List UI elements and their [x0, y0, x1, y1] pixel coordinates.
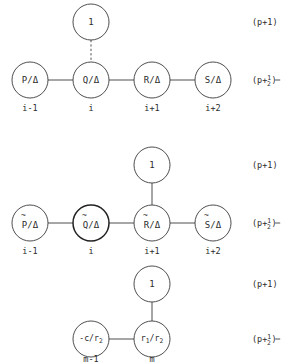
panel-2-level-label-upper: (p+1) — [252, 160, 278, 170]
panel-1-node-2-label: R/Δ — [144, 75, 161, 85]
panel-2-node-3-suffix: /Δ — [210, 220, 221, 230]
panel-1-node-3-label: S/Δ — [205, 75, 222, 85]
panel-2-node-3-index: i+2 — [205, 246, 220, 256]
panel-3-level-lower-prefix: (p+ — [252, 334, 267, 344]
panel-1-node-1-label: Q/Δ — [83, 75, 100, 85]
panel-2-node-1-suffix: /Δ — [88, 220, 99, 230]
panel-2-top-node-label: 1 — [149, 160, 154, 170]
panel-3-node-0-numer: -c — [79, 333, 89, 343]
panel-2-node-3-label: S/Δ — [205, 220, 222, 230]
panel-1-top-node-label: 1 — [88, 17, 93, 27]
panel-2: 1 ~ P/Δ i-1 ~ Q/Δ i ~ R/Δ i+1 ~ S/Δ i+2 … — [12, 147, 280, 256]
stencil-diagram-figure: 1 P/Δ i-1 Q/Δ i R/Δ i+1 S/Δ i+2 (p+1) (p… — [0, 0, 307, 364]
panel-2-level-label-lower: (p+12) — [252, 217, 277, 231]
panel-1-level-lower-prefix: (p+ — [252, 75, 267, 85]
panel-1: 1 P/Δ i-1 Q/Δ i R/Δ i+1 S/Δ i+2 (p+1) (p… — [12, 4, 280, 113]
panel-1-node-2-index: i+1 — [144, 103, 159, 113]
panel-2-level-lower-prefix: (p+ — [252, 218, 267, 228]
panel-3-node-1-index: m — [149, 354, 154, 364]
panel-3-node-0-index: m-1 — [83, 354, 98, 364]
panel-2-node-0-index: i-1 — [22, 246, 37, 256]
panel-2-node-1-label: Q/Δ — [83, 220, 100, 230]
panel-1-node-0-index: i-1 — [22, 103, 37, 113]
panel-3-level-label-upper: (p+1) — [252, 279, 278, 289]
panel-1-node-3-index: i+2 — [205, 103, 220, 113]
panel-2-node-0-label: P/Δ — [22, 220, 39, 230]
panel-2-node-1-index: i — [88, 246, 93, 256]
panel-3: 1 -c/r2 m-1 r1/r2 m (p+1) (p+12) — [73, 266, 280, 364]
panel-1-level-label-lower: (p+12) — [252, 74, 277, 88]
panel-2-node-2-suffix: /Δ — [149, 220, 160, 230]
panel-1-level-label-upper: (p+1) — [252, 17, 278, 27]
panel-3-node-1-denom-sub: 2 — [159, 337, 163, 345]
panel-2-node-2-index: i+1 — [144, 246, 159, 256]
panel-2-node-0-suffix: /Δ — [27, 220, 38, 230]
panel-2-node-2-label: R/Δ — [144, 220, 161, 230]
panel-3-top-node-label: 1 — [149, 279, 154, 289]
panel-3-level-label-lower: (p+12) — [252, 333, 277, 347]
panel-3-node-0-denom-sub: 2 — [99, 337, 103, 345]
panel-1-node-0-label: P/Δ — [22, 75, 39, 85]
panel-1-node-1-index: i — [88, 103, 93, 113]
